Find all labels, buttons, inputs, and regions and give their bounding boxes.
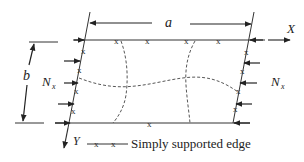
svg-text:x: x — [81, 46, 86, 56]
right-load-arrows — [234, 40, 263, 123]
plate-outline — [55, 12, 254, 128]
svg-text:N: N — [270, 74, 281, 89]
left-load-label: N x — [41, 74, 56, 91]
svg-text:x: x — [280, 82, 285, 91]
nodal-line-right — [186, 41, 195, 123]
y-axis-label: Y — [73, 134, 81, 148]
svg-text:x: x — [244, 47, 249, 57]
buckling-mode-lines — [79, 41, 238, 123]
svg-text:x: x — [74, 86, 79, 96]
plate-buckling-diagram: X Y a b N x N x — [0, 0, 304, 162]
legend-symbol-x1: x — [94, 139, 99, 149]
nodal-line-left — [113, 41, 127, 123]
legend-symbol-x2: x — [111, 139, 116, 149]
svg-text:x: x — [240, 66, 245, 76]
dimension-a-label: a — [165, 15, 172, 30]
legend: x x Simply supported edge — [87, 136, 251, 151]
svg-text:x: x — [51, 82, 56, 91]
svg-text:x: x — [71, 106, 76, 116]
y-axis: Y — [64, 128, 81, 148]
svg-text:N: N — [41, 74, 52, 89]
nodal-line-horizontal — [79, 77, 238, 92]
svg-text:x: x — [216, 36, 221, 46]
dimension-b-label: b — [23, 68, 30, 83]
svg-text:x: x — [233, 104, 238, 114]
dimension-a: a — [90, 15, 251, 30]
svg-text:x: x — [236, 86, 241, 96]
svg-text:x: x — [147, 119, 152, 129]
svg-text:x: x — [114, 36, 119, 46]
left-load-arrows — [55, 40, 84, 123]
x-axis-label: X — [286, 21, 296, 36]
svg-text:x: x — [184, 36, 189, 46]
x-axis: X — [252, 21, 296, 40]
legend-text: Simply supported edge — [131, 136, 251, 151]
right-load-label: N x — [270, 74, 285, 91]
svg-text:x: x — [145, 36, 150, 46]
svg-text:x: x — [77, 65, 82, 75]
